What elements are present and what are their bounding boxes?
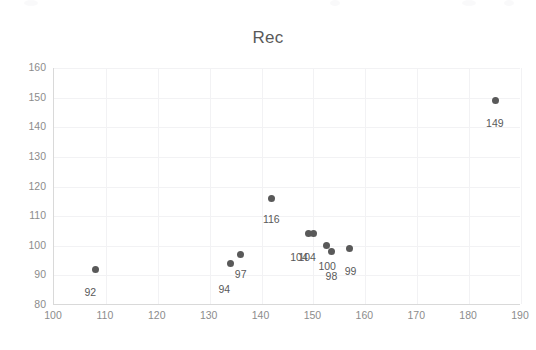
data-point	[492, 97, 499, 104]
data-point-label: 104	[298, 251, 316, 263]
gridline-horizontal	[54, 187, 520, 188]
data-point-label: 98	[326, 270, 338, 282]
y-axis-tick-label: 160	[12, 61, 46, 73]
data-point	[328, 248, 335, 255]
gridline-horizontal	[54, 98, 520, 99]
y-axis-tick-label: 150	[12, 91, 46, 103]
x-axis-tick-label: 100	[33, 309, 73, 321]
gridline-vertical	[521, 68, 522, 304]
data-point	[310, 230, 317, 237]
gridline-horizontal	[54, 157, 520, 158]
data-point	[268, 195, 275, 202]
plot-area: 9294971161041041009899149	[53, 68, 520, 305]
x-axis-tick-label: 150	[292, 309, 332, 321]
x-axis-tick-label: 140	[241, 309, 281, 321]
y-axis-tick-label: 130	[12, 150, 46, 162]
data-point-label: 94	[218, 283, 230, 295]
data-point-label: 149	[486, 117, 504, 129]
scatter-chart: Rec 9294971161041041009899149 1001101201…	[0, 0, 536, 350]
capture-artifact	[462, 0, 476, 6]
y-axis-tick-label: 90	[12, 268, 46, 280]
capture-artifact	[330, 0, 340, 6]
x-axis-tick-label: 130	[189, 309, 229, 321]
x-axis-tick-label: 190	[500, 309, 536, 321]
data-point-label: 116	[263, 213, 280, 225]
data-point-label: 99	[345, 265, 357, 277]
capture-artifact	[24, 0, 38, 6]
data-point	[237, 251, 244, 258]
data-point-label: 97	[235, 268, 247, 280]
gridline-horizontal	[54, 68, 520, 69]
data-point	[92, 266, 99, 273]
x-axis-tick-label: 160	[344, 309, 384, 321]
data-point-label: 92	[85, 286, 97, 298]
x-axis-tick-label: 110	[85, 309, 125, 321]
data-point	[227, 260, 234, 267]
data-point	[346, 245, 353, 252]
y-axis-tick-label: 140	[12, 120, 46, 132]
capture-artifact	[504, 0, 514, 6]
y-axis-tick-label: 80	[12, 298, 46, 310]
y-axis-tick-label: 120	[12, 180, 46, 192]
x-axis-tick-label: 170	[396, 309, 436, 321]
x-axis-tick-label: 120	[137, 309, 177, 321]
chart-title: Rec	[0, 28, 536, 48]
gridline-horizontal	[54, 127, 520, 128]
gridline-horizontal	[54, 216, 520, 217]
gridline-horizontal	[54, 275, 520, 276]
y-axis-tick-label: 100	[12, 239, 46, 251]
x-axis-tick-label: 180	[448, 309, 488, 321]
y-axis-tick-label: 110	[12, 209, 46, 221]
gridline-horizontal	[54, 246, 520, 247]
